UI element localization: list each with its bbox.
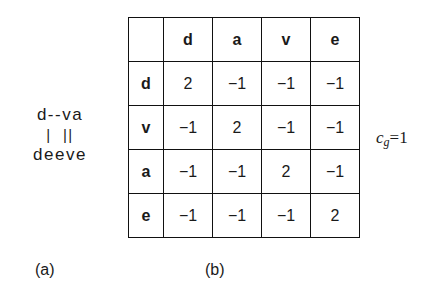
matrix-value-cell: −1 [164, 106, 213, 150]
table-row: v −1 2 −1 −1 [129, 106, 360, 150]
matrix-value-cell: −1 [213, 150, 262, 194]
alignment-top-sequence: d--va [0, 104, 120, 125]
caption-panel-a: (a) [35, 261, 55, 279]
gap-cost-symbol: c [376, 128, 384, 147]
matrix-value-cell: −1 [311, 150, 360, 194]
matrix-value-cell: −1 [213, 194, 262, 238]
table-header-row: d a v e [129, 18, 360, 62]
matrix-value-cell: −1 [164, 150, 213, 194]
row-header-cell: v [129, 106, 164, 150]
column-header-cell: e [311, 18, 360, 62]
matrix-value-cell: −1 [164, 194, 213, 238]
gap-cost-label: cg=1 [376, 128, 408, 150]
table-row: a −1 −1 2 −1 [129, 150, 360, 194]
table-row: e −1 −1 −1 2 [129, 194, 360, 238]
matrix-value-cell: −1 [262, 62, 311, 106]
matrix-value-cell: 2 [213, 106, 262, 150]
substitution-matrix-panel: d a v e d 2 −1 −1 −1 v −1 2 −1 −1 a −1 [128, 17, 360, 238]
matrix-corner-cell [129, 18, 164, 62]
matrix-value-cell: −1 [311, 106, 360, 150]
matrix-value-cell: −1 [262, 106, 311, 150]
column-header-cell: d [164, 18, 213, 62]
alignment-bottom-sequence: deeve [0, 144, 120, 165]
substitution-matrix-table: d a v e d 2 −1 −1 −1 v −1 2 −1 −1 a −1 [128, 17, 360, 238]
caption-panel-b: (b) [205, 261, 225, 279]
alignment-panel: d--va | || deeve [0, 104, 120, 165]
matrix-value-cell: 2 [262, 150, 311, 194]
matrix-value-cell: −1 [213, 62, 262, 106]
matrix-value-cell: −1 [311, 62, 360, 106]
column-header-cell: v [262, 18, 311, 62]
alignment-match-bars: | || [0, 125, 120, 144]
row-header-cell: a [129, 150, 164, 194]
column-header-cell: a [213, 18, 262, 62]
matrix-value-cell: −1 [262, 194, 311, 238]
row-header-cell: d [129, 62, 164, 106]
matrix-value-cell: 2 [311, 194, 360, 238]
gap-cost-value: =1 [390, 128, 408, 147]
row-header-cell: e [129, 194, 164, 238]
table-row: d 2 −1 −1 −1 [129, 62, 360, 106]
matrix-value-cell: 2 [164, 62, 213, 106]
